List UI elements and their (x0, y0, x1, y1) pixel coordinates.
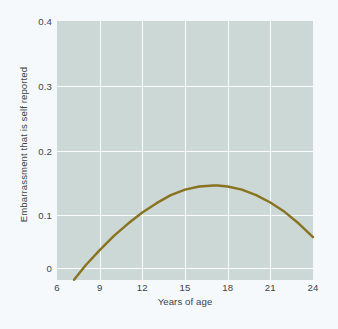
x-tick-label-12: 12 (127, 282, 157, 293)
x-tick-label-15: 15 (170, 282, 200, 293)
x-tick-label-21: 21 (255, 282, 285, 293)
x-tick-label-6: 6 (42, 282, 72, 293)
series-line-embarrassment (74, 186, 313, 280)
x-tick-label-24: 24 (298, 282, 328, 293)
x-axis-label: Years of age (57, 296, 313, 307)
y-axis-label: Embarrassment that is self reported (14, 21, 32, 268)
x-tick-label-9: 9 (85, 282, 115, 293)
chart-figure: 0.4 0.3 0.2 0.1 0 6 9 12 15 18 21 24 Emb… (0, 0, 338, 329)
x-tick-label-18: 18 (213, 282, 243, 293)
